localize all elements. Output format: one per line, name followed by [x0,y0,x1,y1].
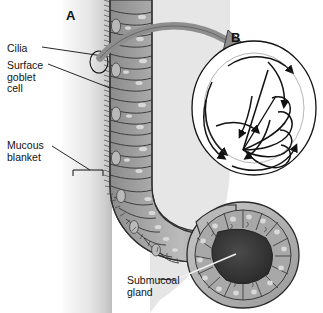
figure-canvas [0,0,323,313]
gland-lumen [212,229,273,284]
panel-b-group [192,41,316,175]
label-submucosal-gland: Submucoal gland [127,275,180,298]
submucosal-gland-group [187,202,299,308]
mucous-blanket-layer [62,0,112,313]
label-cilia: Cilia [7,43,27,55]
label-mucous-blanket: Mucous blanket [7,140,44,163]
respiratory-mucosa-figure: A B Cilia Surface goblet cell Mucous bla… [0,0,323,313]
label-surface-goblet-cell: Surface goblet cell [7,60,43,95]
panel-letter-b: B [231,31,240,44]
panel-letter-a: A [66,9,75,22]
